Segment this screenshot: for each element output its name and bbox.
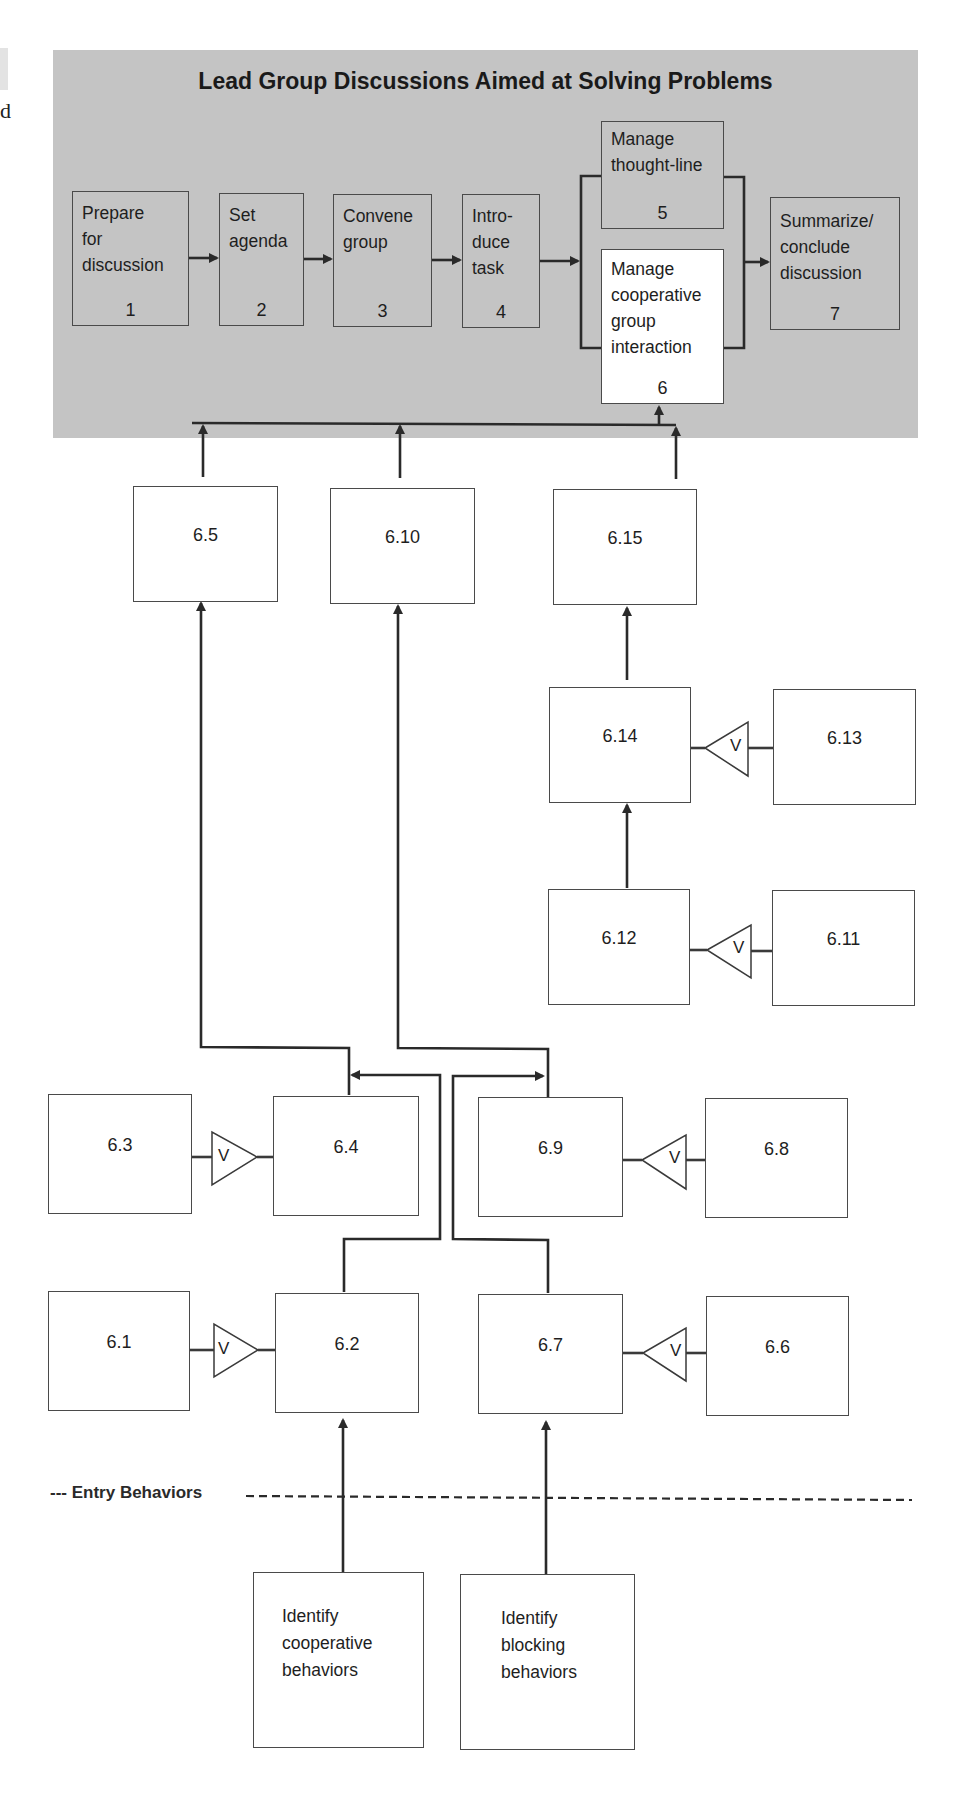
step-label: Summarize/ conclude discussion [780,208,873,286]
step-number: 4 [463,302,539,323]
subskill-label: 6.3 [107,1135,132,1156]
step-box-4: Intro- duce task 4 [462,194,540,328]
subskill-label: 6.8 [764,1139,789,1160]
subskill-label: 6.4 [333,1137,358,1158]
entry-behavior-label: Identify blocking behaviors [501,1605,577,1686]
subskill-box-6-4: 6.4 [273,1096,419,1216]
step-number: 3 [334,301,431,322]
subskill-box-6-1: 6.1 [48,1291,190,1411]
subskill-label: 6.11 [827,929,861,950]
verbal-info-symbol: V [218,1146,229,1166]
subskill-box-6-3: 6.3 [48,1094,192,1214]
step-label: Intro- duce task [472,203,513,281]
subskill-box-6-6: 6.6 [706,1296,849,1416]
subskill-box-6-5: 6.5 [133,486,278,602]
subskill-box-6-7: 6.7 [478,1294,623,1414]
verbal-info-symbol: V [733,938,744,958]
verbal-info-symbol: V [218,1339,229,1359]
subskill-label: 6.2 [334,1334,359,1355]
entry-behavior-label: Identify cooperative behaviors [282,1603,372,1684]
subskill-box-6-9: 6.9 [478,1097,623,1217]
subskill-label: 6.1 [106,1332,131,1353]
subskill-box-6-10: 6.10 [330,488,475,604]
step-number: 7 [771,304,899,325]
subskill-box-6-11: 6.11 [772,890,915,1006]
step-label: Manage cooperative group interaction [611,256,701,360]
entry-behavior-box-cooperative: Identify cooperative behaviors [253,1572,424,1748]
subskill-label: 6.7 [538,1335,563,1356]
step-label: Manage thought-line [611,126,702,178]
subskill-label: 6.15 [607,528,642,549]
subskill-label: 6.6 [765,1337,790,1358]
verbal-info-symbol: V [670,1341,681,1361]
step-number: 6 [602,378,723,399]
subskill-label: 6.13 [827,728,862,749]
subskill-label: 6.14 [602,726,637,747]
subskill-box-6-8: 6.8 [705,1098,848,1218]
step-label: Set agenda [229,202,287,254]
subskill-label: 6.9 [538,1138,563,1159]
step-box-7: Summarize/ conclude discussion 7 [770,197,900,330]
verbal-info-symbol: V [730,736,741,756]
step-number: 1 [73,300,188,321]
entry-behaviors-label: --- Entry Behaviors [46,1483,206,1503]
subskill-label: 6.10 [385,527,420,548]
step-label: Convene group [343,203,413,255]
step-box-5: Manage thought-line 5 [601,121,724,229]
entry-behavior-box-blocking: Identify blocking behaviors [460,1574,635,1750]
subskill-label: 6.12 [601,928,636,949]
step-number: 5 [602,203,723,224]
subskill-box-6-14: 6.14 [549,687,691,803]
subskill-box-6-12: 6.12 [548,889,690,1005]
subskill-label: 6.5 [193,525,218,546]
subskill-box-6-15: 6.15 [553,489,697,605]
step-number: 2 [220,300,303,321]
subskill-box-6-13: 6.13 [773,689,916,805]
step-box-3: Convene group 3 [333,194,432,327]
step-box-1: Prepare for discussion 1 [72,191,189,326]
verbal-info-symbol: V [669,1148,680,1168]
step-box-2: Set agenda 2 [219,193,304,326]
step-label: Prepare for discussion [82,200,164,278]
subskill-box-6-2: 6.2 [275,1293,419,1413]
step-box-6-highlighted: Manage cooperative group interaction 6 [601,249,724,404]
